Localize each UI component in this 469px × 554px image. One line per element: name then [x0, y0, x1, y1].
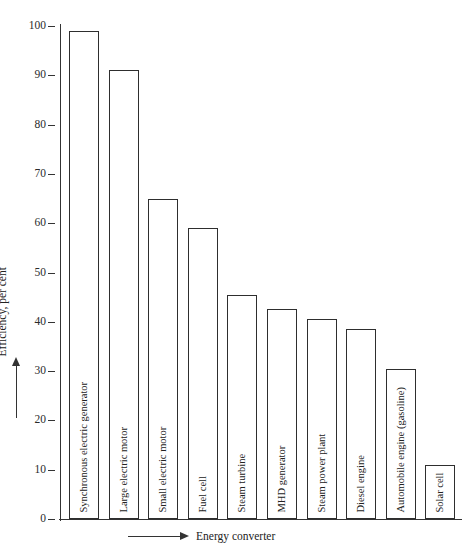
bar: Solar cell — [425, 465, 455, 519]
x-axis-line — [59, 519, 462, 520]
y-tick-mark — [48, 371, 55, 372]
y-tick-mark — [48, 470, 55, 471]
bar: Diesel engine — [346, 329, 376, 519]
y-axis-title: Efficiency, per cent — [8, 258, 26, 418]
y-tick-label: 30 — [35, 365, 47, 377]
bar-label: Steam turbine — [237, 453, 248, 512]
bar: Steam turbine — [227, 295, 257, 519]
bar: Automobile engine (gasoline) — [386, 369, 416, 519]
bar-label: Automobile engine (gasoline) — [395, 387, 406, 512]
bar-label: Large electric motor — [118, 426, 129, 512]
y-tick-mark — [48, 273, 55, 274]
y-tick-label: 40 — [35, 316, 47, 328]
y-tick-mark — [48, 322, 55, 323]
x-axis-arrow-shaft — [128, 536, 182, 537]
bar-label: Steam power plant — [316, 433, 327, 512]
y-tick-mark — [48, 174, 55, 175]
y-axis-arrow-head-icon — [12, 357, 20, 366]
bar: Small electric motor — [148, 199, 178, 519]
bar: Large electric motor — [109, 70, 139, 519]
bar: Fuel cell — [188, 228, 218, 519]
y-tick-label: 100 — [29, 20, 46, 32]
y-tick-mark — [48, 26, 55, 27]
bar-label: Synchronous electric generator — [79, 381, 90, 512]
y-tick-label: 10 — [35, 464, 47, 476]
y-tick-mark — [48, 420, 55, 421]
y-tick-label: 60 — [35, 217, 47, 229]
bar-label: MHD generator — [277, 445, 288, 512]
y-tick-label: 80 — [35, 119, 47, 131]
bar: Synchronous electric generator — [69, 31, 99, 519]
y-tick-label: 0 — [40, 513, 46, 525]
bar: MHD generator — [267, 309, 297, 519]
y-tick-label: 70 — [35, 168, 47, 180]
y-tick-mark — [48, 519, 55, 520]
x-axis-arrow-head-icon — [180, 532, 189, 540]
y-tick-mark — [48, 125, 55, 126]
x-axis-title-text: Energy converter — [196, 528, 275, 544]
bars-layer: Synchronous electric generatorLarge elec… — [61, 26, 461, 519]
efficiency-bar-chart: 0102030405060708090100 Efficiency, per c… — [0, 0, 469, 554]
y-axis-arrow-shaft — [16, 360, 17, 418]
y-tick-label: 50 — [35, 267, 47, 279]
y-tick-mark — [48, 223, 55, 224]
bar-label: Solar cell — [435, 472, 446, 512]
y-axis-title-text: Efficiency, per cent — [0, 267, 8, 356]
bar-label: Diesel engine — [356, 455, 367, 512]
y-tick-mark — [48, 75, 55, 76]
bar-label: Fuel cell — [197, 476, 208, 512]
y-tick-label: 90 — [35, 69, 47, 81]
y-tick-label: 20 — [35, 414, 47, 426]
bar: Steam power plant — [307, 319, 337, 519]
bar-label: Small electric motor — [158, 426, 169, 512]
